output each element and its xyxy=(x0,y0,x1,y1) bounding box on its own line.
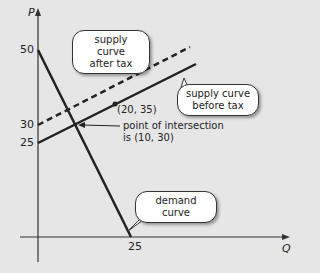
intersection-pointer xyxy=(82,125,120,126)
point-label: (20, 35) xyxy=(117,104,157,116)
bubble-demand: demand curve xyxy=(135,191,217,223)
y-tick-30: 30 xyxy=(20,118,34,131)
intersection-label-1: point of intersection xyxy=(123,120,224,132)
p-axis-arrow-icon xyxy=(35,8,41,16)
bubble-text: supply curve xyxy=(184,88,252,100)
intersection-label-2: is (10, 30) xyxy=(123,132,174,144)
bubble-text: before tax xyxy=(184,100,252,112)
q-axis-label: Q xyxy=(282,242,291,255)
bubble-text: demand curve xyxy=(142,195,210,219)
q-axis-arrow-icon xyxy=(282,234,290,240)
bubble-text: after tax xyxy=(79,58,143,70)
bubble-supply-before-tax: supply curve before tax xyxy=(177,84,259,116)
y-tick-50: 50 xyxy=(20,43,34,56)
bubble-text: supply curve xyxy=(79,34,143,58)
x-tick-25: 25 xyxy=(128,240,142,253)
y-tick-25: 25 xyxy=(20,136,34,149)
demand-curve xyxy=(38,50,131,237)
bubble-supply-after-tax: supply curve after tax xyxy=(72,30,150,74)
p-axis-label: P xyxy=(28,6,35,19)
